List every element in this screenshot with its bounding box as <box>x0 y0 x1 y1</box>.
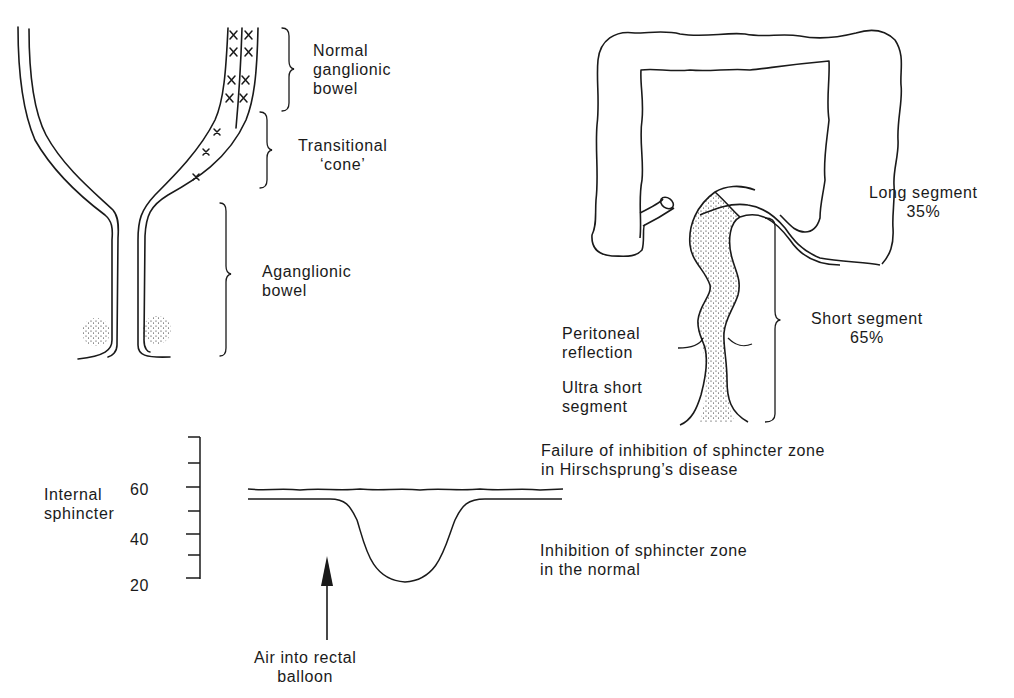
appendix <box>640 199 674 226</box>
arrow-up-icon <box>321 556 333 586</box>
right-wall-outer <box>144 28 258 352</box>
label-ultra-short-segment: Ultra short segment <box>562 378 642 416</box>
tick-label-40: 40 <box>130 530 149 549</box>
brace-normal <box>282 28 294 111</box>
label-hirschsprung-failure: Failure of inhibition of sphincter zone … <box>541 441 825 479</box>
line-hirschsprung <box>248 489 563 490</box>
label-air-into-rectal-balloon: Air into rectal balloon <box>254 648 356 686</box>
y-axis-ticks <box>186 437 200 578</box>
peritoneal-left-arc <box>678 338 703 348</box>
label-peritoneal-reflection: Peritoneal reflection <box>562 324 640 362</box>
right-wall-muscle <box>236 28 242 128</box>
colon-frame-outer <box>592 30 901 264</box>
tick-label-60: 60 <box>130 480 149 499</box>
label-aganglionic-bowel: Aganglionic bowel <box>262 262 351 300</box>
manometry-chart <box>186 437 563 640</box>
left-wall-outer <box>18 27 112 359</box>
right-wall-inner <box>138 28 228 357</box>
sigmoid-loop <box>740 215 840 265</box>
tick-label-20: 20 <box>130 576 149 595</box>
colon-drawing <box>592 30 901 425</box>
label-normal-inhibition: Inhibition of sphincter zone in the norm… <box>540 541 747 579</box>
label-long-segment: Long segment 35% <box>869 183 978 221</box>
label-transitional-cone: Transitional ‘cone’ <box>298 136 387 174</box>
stippled-circle-icon <box>82 318 110 346</box>
stippled-circle-icon <box>143 316 171 344</box>
label-normal-ganglionic-bowel: Normal ganglionic bowel <box>313 41 391 98</box>
peritoneal-right-arc <box>728 338 752 346</box>
brace-aganglionic <box>220 203 231 356</box>
brace-short-segment <box>765 218 780 422</box>
label-internal-sphincter: Internal sphincter <box>44 485 114 523</box>
hirschsprung-diagram <box>0 0 1014 698</box>
left-wall-inner <box>29 29 118 357</box>
line-normal <box>248 499 562 582</box>
bowel-section-drawing <box>18 27 294 359</box>
label-short-segment: Short segment 65% <box>811 309 923 347</box>
brace-transitional <box>260 112 272 188</box>
x-mark-icon <box>193 31 252 180</box>
